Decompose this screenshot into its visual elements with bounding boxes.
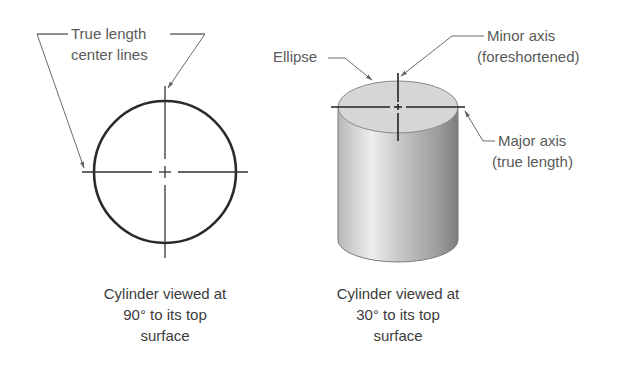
caption-right-line2: 30° to its top [328, 304, 468, 325]
callout-line1: True length [71, 23, 148, 44]
caption-right-line1: Cylinder viewed at [328, 283, 468, 304]
caption-left-line1: Cylinder viewed at [95, 283, 235, 304]
leader-ellipse [328, 58, 372, 80]
major-axis-line1: Major axis [498, 130, 573, 151]
caption-right-line3: surface [328, 325, 468, 346]
callout-major-axis: Major axis (true length) [498, 130, 573, 172]
caption-right: Cylinder viewed at 30° to its top surfac… [328, 283, 468, 346]
minor-axis-line1: Minor axis [487, 25, 580, 46]
leader-vertical-center-line [168, 34, 205, 88]
major-axis-line2: (true length) [492, 151, 573, 172]
leader-minor-axis [401, 36, 484, 76]
minor-axis-line2: (foreshortened) [477, 46, 580, 67]
cylinder-view [328, 36, 495, 262]
callout-minor-axis: Minor axis (foreshortened) [487, 25, 580, 67]
callout-ellipse: Ellipse [273, 46, 317, 67]
caption-left: Cylinder viewed at 90° to its top surfac… [95, 283, 235, 346]
callout-true-length-center-lines: True length center lines [71, 23, 148, 65]
callout-line2: center lines [71, 44, 148, 65]
caption-left-line3: surface [95, 325, 235, 346]
leader-major-axis [465, 111, 495, 141]
circle-view [37, 34, 248, 258]
caption-left-line2: 90° to its top [95, 304, 235, 325]
